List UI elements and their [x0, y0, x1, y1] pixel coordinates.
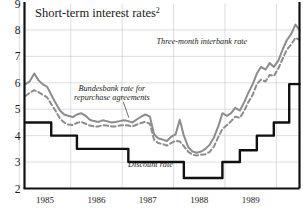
x-tick-label: 1987 — [139, 195, 158, 205]
repo-label-line2: repurchase agreements — [74, 93, 150, 102]
y-tick-label: 6 — [15, 77, 21, 89]
y-tick-label: 2 — [15, 183, 21, 195]
data-series — [26, 25, 300, 178]
repo-label-line1: Bundesbank rate for — [78, 84, 146, 93]
interest-rates-chart: 98765432 19851986198719881989 Short-term… — [0, 0, 303, 211]
y-tick-label: 4 — [15, 130, 21, 142]
x-tick-label: 1986 — [87, 195, 106, 205]
x-tick-labels: 19851986198719881989 — [36, 195, 260, 205]
y-tick-label: 7 — [15, 50, 21, 62]
page-title: Short-term interest rates2 — [35, 6, 160, 21]
x-tick-label: 1988 — [190, 195, 209, 205]
x-tick-label: 1985 — [36, 195, 55, 205]
chart-title-group: Short-term interest rates2 — [35, 6, 160, 21]
chart-container: 98765432 19851986198719881989 Short-term… — [0, 0, 303, 211]
y-tick-label: 8 — [15, 24, 21, 36]
series-line — [26, 38, 300, 156]
repo-leader-line — [123, 102, 129, 118]
discount-label: Discount rate — [127, 160, 173, 169]
y-tick-label: 3 — [15, 156, 21, 168]
y-tick-labels: 98765432 — [15, 0, 21, 195]
y-tick-label: 5 — [15, 103, 21, 115]
y-tick-label: 9 — [15, 0, 21, 10]
title-superscript: 2 — [156, 6, 160, 15]
x-tick-label: 1989 — [242, 195, 261, 205]
interbank-label: Three-month interbank rate — [157, 37, 248, 46]
